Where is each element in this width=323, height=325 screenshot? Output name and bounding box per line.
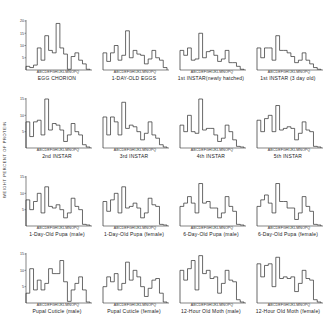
histogram-panel: ABCDEFGHIJKLMNOPQ5th INSTAR xyxy=(251,92,323,164)
histogram-plot xyxy=(174,92,248,152)
panel-title: Pupal Cuticle (male) xyxy=(14,308,100,314)
y-tick-label: 10 xyxy=(20,192,24,196)
y-tick-label: 15 xyxy=(20,252,24,256)
y-tick-label: 20 xyxy=(20,19,24,23)
panel-title: 4th INSTAR xyxy=(168,153,254,159)
x-category-labels: ABCDEFGHIJKLMNOPQ xyxy=(26,226,90,230)
histogram-step-line xyxy=(257,257,321,303)
histogram-step-line xyxy=(26,99,90,148)
x-category-labels: ABCDEFGHIJKLMNOPQ xyxy=(26,303,90,307)
panel-title: 1st INSTAR (3 day old) xyxy=(245,75,323,81)
x-category-labels: ABCDEFGHIJKLMNOPQ xyxy=(257,70,321,74)
x-category-labels: ABCDEFGHIJKLMNOPQ xyxy=(26,148,90,152)
y-tick-label: 15 xyxy=(20,175,24,179)
y-tick-label: 5 xyxy=(22,130,24,134)
histogram-panel: 51015ABCDEFGHIJKLMNOPQPupal Cuticle (mal… xyxy=(20,247,94,319)
histogram-plot xyxy=(97,247,171,307)
histogram-plot xyxy=(251,247,323,307)
panel-title: 3rd INSTAR xyxy=(91,153,177,159)
panel-title: 1-DAY-OLD EGGS xyxy=(91,75,177,81)
x-category-labels: ABCDEFGHIJKLMNOPQ xyxy=(257,226,321,230)
histogram-panel: ABCDEFGHIJKLMNOPQ12-Hour Old Moth (femal… xyxy=(251,247,323,319)
histogram-plot: 51015 xyxy=(20,247,94,307)
histogram-step-line xyxy=(180,99,244,148)
x-category-labels: ABCDEFGHIJKLMNOPQ xyxy=(103,226,167,230)
histogram-step-line xyxy=(257,106,321,148)
panel-title: Pupal Cuticle (female) xyxy=(91,308,177,314)
histogram-plot xyxy=(251,92,323,152)
y-tick-label: 5 xyxy=(22,56,24,60)
histogram-panel: ABCDEFGHIJKLMNOPQ12-Hour Old Moth (male) xyxy=(174,247,248,319)
histogram-panel: ABCDEFGHIJKLMNOPQ1-DAY-OLD EGGS xyxy=(97,14,171,86)
histogram-plot xyxy=(174,170,248,230)
histogram-step-line xyxy=(257,184,321,226)
histogram-step-line xyxy=(257,36,321,70)
histogram-step-line xyxy=(26,23,90,70)
histogram-step-line xyxy=(26,187,90,226)
histogram-plot: 51015 xyxy=(20,170,94,230)
x-category-labels: ABCDEFGHIJKLMNOPQ xyxy=(180,148,244,152)
histogram-step-line xyxy=(180,256,244,303)
y-tick-label: 10 xyxy=(20,269,24,273)
y-tick-label: 10 xyxy=(20,114,24,118)
y-tick-label: 5 xyxy=(22,208,24,212)
histogram-step-line xyxy=(180,33,244,70)
x-category-labels: ABCDEFGHIJKLMNOPQ xyxy=(180,70,244,74)
panel-title: 5th INSTAR xyxy=(245,153,323,159)
x-category-labels: ABCDEFGHIJKLMNOPQ xyxy=(257,148,321,152)
panel-title: 1-Day-Old Pupa (female) xyxy=(91,231,177,237)
x-category-labels: ABCDEFGHIJKLMNOPQ xyxy=(103,70,167,74)
histogram-panel: ABCDEFGHIJKLMNOPQ6-Day-Old Pupa (female) xyxy=(251,170,323,242)
histogram-plot: 5101520 xyxy=(20,14,94,74)
histogram-plot xyxy=(251,170,323,230)
panel-title: 6-Day-Old Pupa (female) xyxy=(245,231,323,237)
histogram-step-line xyxy=(103,262,167,303)
y-tick-label: 10 xyxy=(20,44,24,48)
histogram-panel: ABCDEFGHIJKLMNOPQ1-Day-Old Pupa (female) xyxy=(97,170,171,242)
x-category-labels: ABCDEFGHIJKLMNOPQ xyxy=(103,303,167,307)
histogram-panel: 51015ABCDEFGHIJKLMNOPQ1-Day-Old Pupa (ma… xyxy=(20,170,94,242)
panel-title: 12-Hour Old Moth (female) xyxy=(245,308,323,314)
y-axis-label: WEIGHT PERCENT OF PROTEIN xyxy=(2,100,12,220)
histogram-plot xyxy=(97,170,171,230)
y-tick-label: 15 xyxy=(20,32,24,36)
histogram-step-line xyxy=(180,184,244,226)
y-tick-label: 15 xyxy=(20,97,24,101)
histogram-plot xyxy=(97,92,171,152)
panel-title: 6-Day-Old Pupa (male) xyxy=(168,231,254,237)
panel-title: 1-Day-Old Pupa (male) xyxy=(14,231,100,237)
histogram-panel: ABCDEFGHIJKLMNOPQ4th INSTAR xyxy=(174,92,248,164)
x-category-labels: ABCDEFGHIJKLMNOPQ xyxy=(180,226,244,230)
histogram-step-line xyxy=(103,102,167,148)
histogram-plot xyxy=(174,247,248,307)
x-category-labels: ABCDEFGHIJKLMNOPQ xyxy=(103,148,167,152)
histogram-panel: ABCDEFGHIJKLMNOPQ3rd INSTAR xyxy=(97,92,171,164)
panel-title: EGG CHORION xyxy=(14,75,100,81)
histogram-plot xyxy=(251,14,323,74)
histogram-panel: ABCDEFGHIJKLMNOPQPupal Cuticle (female) xyxy=(97,247,171,319)
histogram-step-line xyxy=(103,187,167,226)
histogram-step-line xyxy=(103,31,167,70)
histogram-panel: ABCDEFGHIJKLMNOPQ1st INSTAR(newly hatche… xyxy=(174,14,248,86)
panel-title: 12-Hour Old Moth (male) xyxy=(168,308,254,314)
y-tick-label: 5 xyxy=(22,285,24,289)
histogram-panel: 5101520ABCDEFGHIJKLMNOPQEGG CHORION xyxy=(20,14,94,86)
histogram-step-line xyxy=(26,261,90,303)
histogram-plot xyxy=(97,14,171,74)
panel-title: 2nd INSTAR xyxy=(14,153,100,159)
histogram-panel: ABCDEFGHIJKLMNOPQ1st INSTAR (3 day old) xyxy=(251,14,323,86)
histogram-plot xyxy=(174,14,248,74)
histogram-plot: 51015 xyxy=(20,92,94,152)
panel-title: 1st INSTAR(newly hatched) xyxy=(168,75,254,81)
histogram-panel: 51015ABCDEFGHIJKLMNOPQ2nd INSTAR xyxy=(20,92,94,164)
histogram-panel: ABCDEFGHIJKLMNOPQ6-Day-Old Pupa (male) xyxy=(174,170,248,242)
x-category-labels: ABCDEFGHIJKLMNOPQ xyxy=(180,303,244,307)
x-category-labels: ABCDEFGHIJKLMNOPQ xyxy=(26,70,90,74)
x-category-labels: ABCDEFGHIJKLMNOPQ xyxy=(257,303,321,307)
